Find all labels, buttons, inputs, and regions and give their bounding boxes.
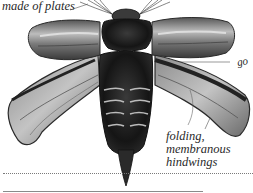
right-hindwing [155, 55, 250, 136]
right-elytron [152, 18, 235, 58]
beetle-head [102, 9, 152, 51]
left-hindwing [8, 55, 100, 145]
label-hindwings: folding, membranous hindwings [166, 130, 231, 169]
label-made-of-plates: made of plates [2, 0, 75, 13]
label-go-cutoff: go [236, 54, 249, 69]
solid-divider [3, 191, 203, 192]
dotted-divider [3, 173, 253, 174]
book-page: made of plates go folding, membranous hi… [0, 0, 253, 193]
left-elytron [28, 20, 100, 60]
beetle-abdomen [99, 51, 152, 186]
label-hindwings-line3: hindwings [166, 156, 231, 169]
